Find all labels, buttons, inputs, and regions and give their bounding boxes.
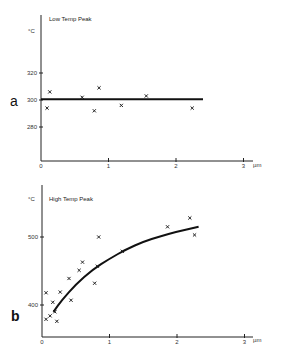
data-point [145, 94, 148, 97]
chart-panel-b: 4005000123High Temp Peak°Cµmb [11, 185, 261, 345]
data-point [93, 282, 96, 285]
x-tick-label: 2 [175, 339, 179, 345]
data-point [67, 277, 70, 280]
chart-title: High Temp Peak [49, 196, 94, 202]
data-point [51, 301, 54, 304]
x-tick-label: 1 [107, 163, 111, 169]
data-point [97, 86, 100, 89]
data-point [45, 107, 48, 110]
data-point [166, 225, 169, 228]
data-point [81, 261, 84, 264]
y-axis-unit: °C [28, 28, 35, 34]
x-axis-unit: µm [253, 337, 261, 343]
y-tick-label: 500 [28, 234, 39, 240]
panel-label: b [11, 308, 20, 324]
x-tick-label: 2 [174, 163, 178, 169]
data-point [78, 269, 81, 272]
y-tick-label: 280 [27, 124, 38, 130]
x-tick-label: 3 [243, 339, 247, 345]
data-point [191, 107, 194, 110]
data-point [69, 299, 72, 302]
y-tick-label: 300 [27, 97, 38, 103]
data-point [93, 109, 96, 112]
data-point [59, 290, 62, 293]
x-tick-label: 0 [40, 339, 44, 345]
data-point [44, 291, 47, 294]
x-tick-label: 0 [39, 163, 43, 169]
fit-line [53, 227, 198, 312]
chart-panel-a: 2803003200123Low Temp Peak°Cµma [10, 15, 261, 169]
chart-figure: 2803003200123Low Temp Peak°Cµma400500012… [0, 0, 285, 358]
chart-title: Low Temp Peak [49, 16, 93, 22]
x-tick-label: 3 [242, 163, 246, 169]
data-point [48, 90, 51, 93]
data-point [44, 318, 47, 321]
data-point [49, 314, 52, 317]
y-tick-label: 320 [27, 70, 38, 76]
y-axis-unit: °C [28, 196, 35, 202]
x-axis-unit: µm [253, 162, 261, 168]
y-tick-label: 400 [28, 302, 39, 308]
data-point [55, 320, 58, 323]
data-point [97, 235, 100, 238]
data-point [193, 233, 196, 236]
data-point [188, 216, 191, 219]
panel-label: a [10, 93, 18, 109]
x-tick-label: 1 [108, 339, 112, 345]
data-point [120, 104, 123, 107]
